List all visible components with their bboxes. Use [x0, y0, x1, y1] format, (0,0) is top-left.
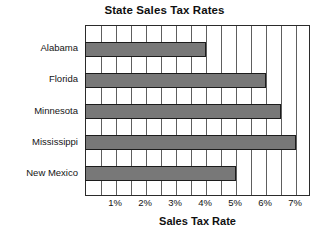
- x-axis-tick-labels: 1%2%3%4%5%6%7%: [85, 198, 310, 214]
- bar: [85, 73, 266, 89]
- bar: [85, 42, 206, 58]
- x-axis-tick-label: 7%: [288, 198, 302, 208]
- plot-area: [85, 25, 310, 196]
- bar-chart: State Sales Tax Rates AlabamaFloridaMinn…: [0, 0, 329, 247]
- y-axis-label-minnesota: Minnesota: [34, 106, 78, 116]
- x-axis-tick-label: 3%: [168, 198, 182, 208]
- y-axis-label-mississippi: Mississippi: [32, 137, 78, 147]
- y-axis-label-new-mexico: New Mexico: [26, 168, 78, 178]
- bar-row: [86, 73, 309, 89]
- bar-row: [86, 42, 309, 58]
- chart-title: State Sales Tax Rates: [0, 4, 329, 16]
- bar: [85, 166, 236, 182]
- x-axis-tick-label: 1%: [108, 198, 122, 208]
- x-axis-tick-label: 2%: [138, 198, 152, 208]
- bar: [85, 135, 296, 151]
- bar-row: [86, 166, 309, 182]
- y-axis-label-florida: Florida: [49, 74, 78, 84]
- bar-row: [86, 135, 309, 151]
- x-axis-tick-label: 5%: [228, 198, 242, 208]
- x-axis-tick-label: 4%: [198, 198, 212, 208]
- bar-rows: [86, 26, 309, 195]
- bar-row: [86, 104, 309, 120]
- y-axis-category-labels: AlabamaFloridaMinnesotaMississippiNew Me…: [0, 25, 82, 196]
- x-axis-tick-label: 6%: [258, 198, 272, 208]
- y-axis-label-alabama: Alabama: [41, 43, 79, 53]
- x-axis-title: Sales Tax Rate: [85, 215, 310, 227]
- bar: [85, 104, 281, 120]
